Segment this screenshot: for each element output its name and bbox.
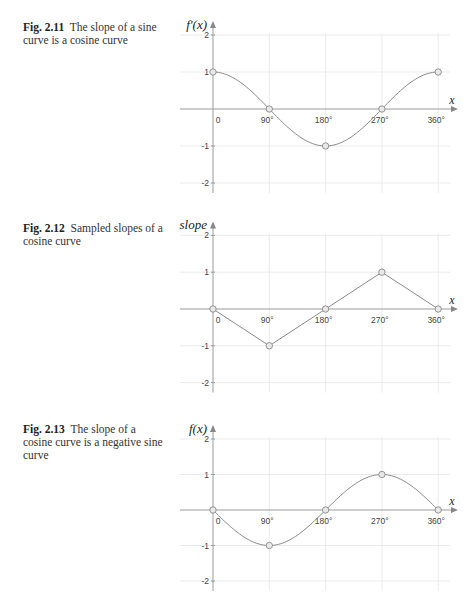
data-point-marker bbox=[379, 269, 385, 275]
chart-cosine-slope: 21-1-2090°180°270°360°f'(x)x bbox=[0, 0, 473, 202]
x-axis-label: x bbox=[448, 93, 455, 107]
x-tick-label: 180° bbox=[315, 115, 333, 125]
x-tick-label: 270° bbox=[371, 315, 389, 325]
x-tick-label: 0 bbox=[216, 315, 221, 325]
data-point-marker bbox=[322, 306, 328, 312]
data-point-marker bbox=[435, 507, 441, 513]
data-point-marker bbox=[435, 69, 441, 75]
axes: 21-1-2090°180°270°360° bbox=[180, 425, 458, 591]
grid bbox=[180, 233, 450, 392]
y-axis-arrow-icon bbox=[210, 21, 216, 28]
x-tick-label: 90° bbox=[261, 516, 274, 526]
y-axis-label: f'(x) bbox=[186, 17, 207, 32]
data-point-marker bbox=[210, 69, 216, 75]
data-point-marker bbox=[210, 507, 216, 513]
figure-2-13: Fig. 2.13 The slope of a cosine curve is… bbox=[0, 403, 473, 605]
x-axis-label: x bbox=[448, 293, 455, 307]
x-tick-label: 360° bbox=[427, 115, 445, 125]
x-tick-label: 270° bbox=[371, 115, 389, 125]
y-axis-label: f(x) bbox=[189, 421, 207, 436]
data-point-marker bbox=[266, 106, 272, 112]
x-tick-label: 90° bbox=[261, 115, 274, 125]
figure-2-11: Fig. 2.11 The slope of a sine curve is a… bbox=[0, 0, 473, 202]
y-tick-label: -2 bbox=[201, 178, 209, 188]
data-point-marker bbox=[379, 471, 385, 477]
y-tick-label: -1 bbox=[201, 541, 209, 551]
x-tick-label: 360° bbox=[427, 315, 445, 325]
data-point-marker bbox=[379, 106, 385, 112]
grid bbox=[180, 33, 450, 193]
y-tick-label: -1 bbox=[201, 141, 209, 151]
chart-negative-sine: 21-1-2090°180°270°360°f(x)x bbox=[0, 403, 473, 605]
data-point-marker bbox=[266, 343, 272, 349]
y-axis-arrow-icon bbox=[210, 425, 216, 432]
y-tick-label: -1 bbox=[201, 341, 209, 351]
data-point-marker bbox=[435, 306, 441, 312]
axes: 21-1-2090°180°270°360° bbox=[180, 221, 458, 392]
data-point-marker bbox=[210, 306, 216, 312]
x-tick-label: 90° bbox=[261, 315, 274, 325]
x-tick-label: 0 bbox=[216, 115, 221, 125]
y-axis-arrow-icon bbox=[210, 221, 216, 228]
chart-sampled-slopes: 21-1-2090°180°270°360°slopex bbox=[0, 202, 473, 403]
grid bbox=[180, 437, 450, 591]
data-point-marker bbox=[322, 507, 328, 513]
y-tick-label: 1 bbox=[204, 470, 209, 480]
data-point-marker bbox=[266, 542, 272, 548]
y-tick-label: 1 bbox=[204, 67, 209, 77]
y-axis-label: slope bbox=[180, 217, 208, 232]
x-tick-label: 270° bbox=[371, 516, 389, 526]
x-axis-label: x bbox=[448, 494, 455, 508]
x-tick-label: 0 bbox=[216, 516, 221, 526]
figure-2-12: Fig. 2.12 Sampled slopes of a cosine cur… bbox=[0, 202, 473, 403]
y-tick-label: -2 bbox=[201, 378, 209, 388]
axes: 21-1-2090°180°270°360° bbox=[180, 21, 458, 193]
y-tick-label: -2 bbox=[201, 576, 209, 586]
x-tick-label: 180° bbox=[315, 315, 333, 325]
x-tick-label: 360° bbox=[427, 516, 445, 526]
data-point-marker bbox=[322, 143, 328, 149]
y-tick-label: 1 bbox=[204, 267, 209, 277]
